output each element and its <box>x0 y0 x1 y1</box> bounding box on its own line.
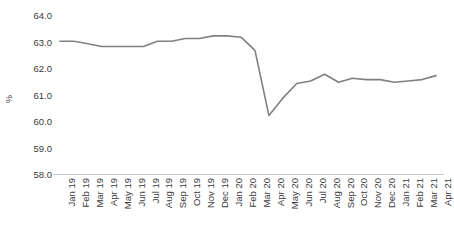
x-tick-label: Nov 20 <box>371 176 384 228</box>
x-tick-label: Mar 21 <box>427 176 440 228</box>
y-tick-label: 60.0 <box>16 117 52 127</box>
x-tick-label: Apr 20 <box>274 176 287 228</box>
x-tick-label: Apr 19 <box>107 176 120 228</box>
y-tick-label: 64.0 <box>16 11 52 21</box>
x-tick-label: Dec 19 <box>218 176 231 228</box>
x-tick-label: Jan 21 <box>399 176 412 228</box>
x-tick-label: Aug 20 <box>330 176 343 228</box>
y-tick-label: 61.0 <box>16 91 52 101</box>
plot-area <box>53 16 443 175</box>
data-series-line <box>60 36 436 116</box>
x-tick-label: Feb 19 <box>79 176 92 228</box>
y-tick-label: 59.0 <box>16 144 52 154</box>
x-tick-label: Sep 19 <box>176 176 189 228</box>
x-tick-label: Feb 21 <box>413 176 426 228</box>
y-tick-label: 62.0 <box>16 64 52 74</box>
x-axis-line <box>53 174 444 175</box>
x-axis-tick-labels: Jan 19Feb 19Mar 19Apr 19May 19Jun 19Jul … <box>53 176 443 231</box>
y-axis-label: % <box>2 92 16 106</box>
x-tick-label: Mar 20 <box>260 176 273 228</box>
y-tick-label: 58.0 <box>16 170 52 180</box>
x-tick-label: Jul 20 <box>316 176 329 228</box>
x-tick-label: Jun 20 <box>302 176 315 228</box>
y-tick-label: 63.0 <box>16 38 52 48</box>
x-tick-label: Jan 20 <box>232 176 245 228</box>
x-tick-label: Feb 20 <box>246 176 259 228</box>
x-tick-label: May 20 <box>288 176 301 228</box>
x-tick-label: Nov 19 <box>204 176 217 228</box>
x-tick-label: Dec 20 <box>385 176 398 228</box>
x-tick-label: Sep 20 <box>344 176 357 228</box>
x-tick-label: May 19 <box>121 176 134 228</box>
x-tick-label: Oct 20 <box>357 176 370 228</box>
x-tick-label: Jan 19 <box>65 176 78 228</box>
x-tick-label: Oct 19 <box>190 176 203 228</box>
x-tick-label: Mar 19 <box>93 176 106 228</box>
data-line-svg <box>53 16 443 175</box>
x-tick-label: Apr 21 <box>441 176 454 228</box>
y-axis-tick-labels: 64.063.062.061.060.059.058.0 <box>16 0 52 231</box>
x-tick-label: Aug 19 <box>162 176 175 228</box>
x-tick-label: Jun 19 <box>135 176 148 228</box>
x-tick-label: Jul 19 <box>149 176 162 228</box>
